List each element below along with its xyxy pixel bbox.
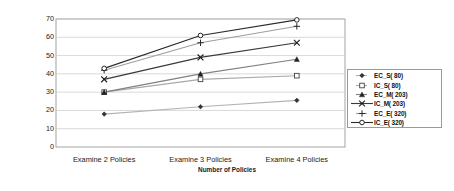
legend-label: IC_E( 320): [374, 119, 404, 126]
data-point-marker: [198, 33, 203, 38]
data-point-marker: [360, 120, 365, 125]
legend-item[interactable]: EC_S( 80): [348, 71, 441, 80]
data-point-marker: [295, 18, 300, 23]
legend-label: EC_S( 80): [374, 72, 403, 79]
data-point-marker: [198, 77, 203, 82]
legend-label: EC_E( 320): [374, 110, 406, 117]
legend-item[interactable]: IC_M( 203): [348, 99, 441, 108]
chart-legend: EC_S( 80)IC_S( 80)EC_M( 203)IC_M( 203)EC…: [347, 69, 442, 128]
data-point-marker: [359, 110, 365, 116]
data-point-marker: [360, 83, 365, 88]
legend-marker-triangle-icon: [350, 90, 374, 99]
legend-label: IC_S( 80): [374, 82, 400, 89]
x-tick-label: Examine 4 Policies: [237, 155, 357, 164]
chart-container: Percentage Saved (%) 010203040506070 Exa…: [0, 0, 454, 191]
legend-item[interactable]: IC_S( 80): [348, 80, 441, 89]
legend-item[interactable]: EC_M( 203): [348, 90, 441, 99]
data-point-marker: [102, 66, 107, 71]
data-point-marker: [360, 73, 365, 78]
x-axis-title: Number of Policies: [0, 166, 454, 173]
legend-marker-x-star-icon: [350, 99, 374, 108]
legend-marker-open-circle-icon: [350, 118, 374, 127]
legend-item[interactable]: EC_E( 320): [348, 109, 441, 118]
legend-marker-plus-icon: [350, 109, 374, 118]
data-point-marker: [295, 73, 300, 78]
legend-marker-open-square-icon: [350, 81, 374, 90]
legend-marker-diamond-icon: [350, 71, 374, 80]
legend-label: EC_M( 203): [374, 91, 407, 98]
legend-item[interactable]: IC_E( 320): [348, 118, 441, 127]
legend-label: IC_M( 203): [374, 100, 405, 107]
